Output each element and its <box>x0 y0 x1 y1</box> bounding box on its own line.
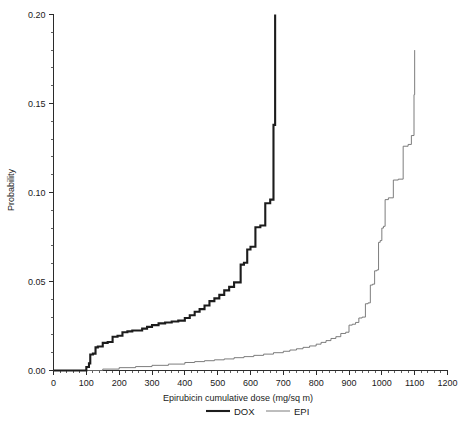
x-tick-label: 1000 <box>372 378 392 388</box>
x-axis-title: Epirubicin cumulative dose (mg/sq m) <box>163 393 313 403</box>
y-tick-label: 0.00 <box>28 366 46 376</box>
epi-curve <box>54 50 415 370</box>
x-tick-label: 1100 <box>405 378 424 388</box>
x-tick-label: 900 <box>341 378 356 388</box>
y-tick-label: 0.15 <box>28 99 46 109</box>
axes <box>54 15 448 371</box>
x-tick-label: 200 <box>112 378 127 388</box>
y-axis-title: Probability <box>6 168 16 211</box>
x-tick-label: 100 <box>79 378 94 388</box>
y-tick-label: 0.10 <box>28 188 46 198</box>
x-tick-label: 1200 <box>437 378 457 388</box>
y-axis-tick-labels: 0.000.050.100.150.20 <box>28 10 46 376</box>
y-tick-label: 0.05 <box>28 277 46 287</box>
legend-label-epi: EPI <box>294 406 309 417</box>
x-tick-label: 600 <box>243 378 258 388</box>
dox-curve <box>54 15 276 371</box>
x-tick-label: 800 <box>309 378 324 388</box>
x-tick-label: 0 <box>51 378 56 388</box>
data-series <box>54 15 415 371</box>
chart-legend: DOX EPI <box>206 406 309 417</box>
legend-label-dox: DOX <box>234 406 255 417</box>
x-axis-tick-labels: 0100200300400500600700800900100011001200 <box>51 378 458 388</box>
chart-figure: 0.000.050.100.150.20 0100200300400500600… <box>0 0 468 424</box>
probability-step-chart: 0.000.050.100.150.20 0100200300400500600… <box>0 0 468 424</box>
x-tick-label: 500 <box>210 378 225 388</box>
y-tick-label: 0.20 <box>28 10 46 20</box>
y-axis-ticks <box>49 15 54 371</box>
x-tick-label: 700 <box>276 378 291 388</box>
x-tick-label: 300 <box>144 378 159 388</box>
x-axis-ticks <box>54 371 448 376</box>
x-tick-label: 400 <box>177 378 192 388</box>
